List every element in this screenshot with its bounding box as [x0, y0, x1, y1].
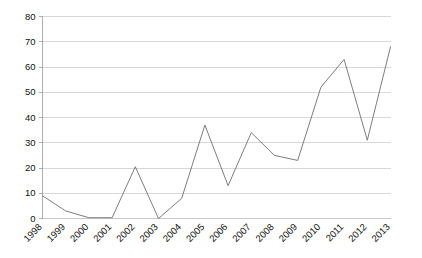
y-tick-label: 20 [25, 162, 36, 173]
y-tick-label: 30 [25, 137, 36, 148]
y-tick-label: 10 [25, 187, 36, 198]
chart-canvas: 01020304050607080 1998199920002001200220… [0, 0, 422, 258]
y-tick-label: 50 [25, 86, 36, 97]
chart-background [0, 0, 422, 258]
y-tick-label: 60 [25, 61, 36, 72]
y-tick-label: 70 [25, 36, 36, 47]
line-chart: 01020304050607080 1998199920002001200220… [0, 0, 422, 258]
y-axis-tick-labels: 01020304050607080 [25, 11, 36, 224]
y-tick-label: 80 [25, 11, 36, 22]
y-tick-label: 40 [25, 112, 36, 123]
